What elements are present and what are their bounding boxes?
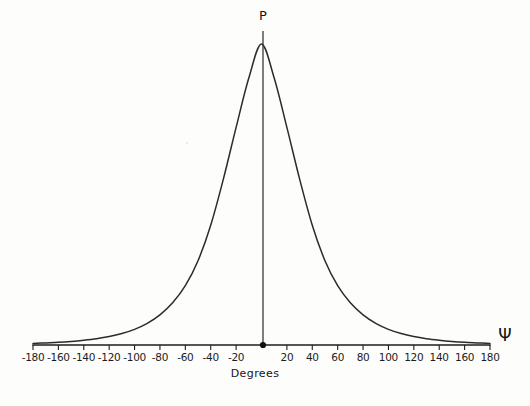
chart-figure: P Ψ -180-160-140-120-100-80-60-40-202040… xyxy=(0,0,530,406)
x-tick-label: 160 xyxy=(455,351,474,363)
x-tick-label: -60 xyxy=(177,351,193,363)
x-tick-label: -20 xyxy=(228,351,244,363)
x-tick-label: -120 xyxy=(98,351,121,363)
x-tick-label: -80 xyxy=(152,351,168,363)
distribution-curve xyxy=(33,44,490,344)
x-tick-label: 180 xyxy=(480,351,499,363)
psi-axis-symbol: Ψ xyxy=(498,325,511,345)
x-tick-label: 60 xyxy=(331,351,344,363)
x-tick-label: -100 xyxy=(123,351,146,363)
x-tick-label: -40 xyxy=(203,351,219,363)
x-tick-label: 20 xyxy=(281,351,294,363)
peak-label: P xyxy=(259,8,267,23)
x-tick-label: -140 xyxy=(72,351,95,363)
x-tick-label: 80 xyxy=(357,351,370,363)
x-tick-label: 40 xyxy=(306,351,319,363)
x-tick-label: 140 xyxy=(430,351,449,363)
x-axis-title: Degrees xyxy=(231,367,280,380)
distribution-plot xyxy=(0,0,530,406)
x-tick-label: -180 xyxy=(22,351,45,363)
origin-point-marker xyxy=(260,342,266,348)
scan-artifact xyxy=(186,142,188,144)
x-tick-label: 100 xyxy=(379,351,398,363)
x-tick-label: 120 xyxy=(404,351,423,363)
x-tick-label: -160 xyxy=(47,351,70,363)
